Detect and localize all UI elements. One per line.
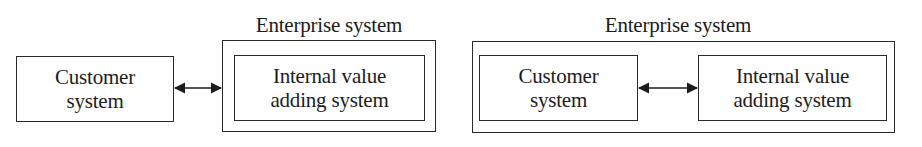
left-customer-system-box: Customer system xyxy=(16,56,174,122)
right-customer-system-label: Customer system xyxy=(518,64,598,112)
right-enterprise-system-title: Enterprise system xyxy=(578,13,778,37)
left-internal-value-adding-system-box: Internal value adding system xyxy=(234,55,425,121)
left-internal-value-adding-system-label: Internal value adding system xyxy=(270,64,388,112)
right-internal-value-adding-system-box: Internal value adding system xyxy=(698,55,887,121)
left-enterprise-system-title: Enterprise system xyxy=(229,13,429,37)
right-customer-system-box: Customer system xyxy=(479,55,638,121)
left-customer-system-label: Customer system xyxy=(55,65,135,113)
right-internal-value-adding-system-label: Internal value adding system xyxy=(733,64,851,112)
